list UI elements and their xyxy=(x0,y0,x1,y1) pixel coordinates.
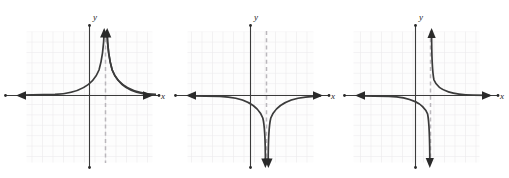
y-axis-bottom-dot xyxy=(414,166,417,169)
grid-lines xyxy=(354,32,480,163)
x-axis-left-dot xyxy=(343,94,346,97)
three-graph-figure: y x y xyxy=(0,0,509,178)
graph-panel-3: y x xyxy=(339,0,509,178)
x-axis-label: x xyxy=(499,91,504,101)
curve-right-arrowhead xyxy=(482,91,492,100)
x-axis-right-dot xyxy=(158,94,161,97)
x-axis-right-dot xyxy=(497,94,500,97)
y-axis-top-dot xyxy=(414,24,417,27)
curve-right-arrowhead xyxy=(313,91,323,100)
y-axis-bottom-dot xyxy=(88,166,91,169)
y-axis-bottom-dot xyxy=(249,166,252,169)
y-axis-top-dot xyxy=(249,24,252,27)
branch-left-down-arrowhead xyxy=(426,158,434,168)
curve-left-arrowhead xyxy=(16,91,26,100)
x-axis-left-dot xyxy=(174,94,177,97)
y-axis-label: y xyxy=(253,12,258,22)
y-axis-label: y xyxy=(418,12,423,22)
y-axis-label: y xyxy=(92,12,97,22)
graph-panel-2: y x xyxy=(170,0,340,178)
y-axis-top-dot xyxy=(88,24,91,27)
graph-panel-1: y x xyxy=(0,0,170,178)
x-axis-left-dot xyxy=(4,94,7,97)
x-axis-label: x xyxy=(330,91,335,101)
x-axis-label: x xyxy=(160,91,165,101)
x-axis-right-dot xyxy=(328,94,331,97)
